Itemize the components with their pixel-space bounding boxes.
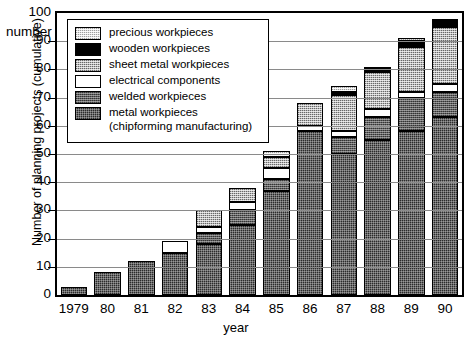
bar-segment-87-electrical [331,131,357,137]
x-tick-label-83: 83 [192,301,226,316]
y-tick-label-20: 20 [17,230,51,245]
bar-segment-89-metal [398,131,424,295]
bar-segment-84-sheet [229,188,255,202]
y-tick-mark-50 [48,154,55,155]
legend-label-precious: precious workpieces [109,26,213,40]
legend-label-electrical: electrical components [109,74,220,88]
y-tick-mark-90 [48,41,55,42]
x-tick-label-88: 88 [361,301,395,316]
x-tick-label-90: 90 [428,301,462,316]
y-tick-label-80: 80 [17,60,51,75]
bar-segment-85-metal [263,191,289,295]
bar-segment-82-metal [162,253,188,295]
legend-swatch-welded-icon [75,91,101,104]
gridline-30 [57,210,462,211]
bar-segment-86-metal [297,131,323,295]
y-tick-mark-70 [48,98,55,99]
y-tick-label-70: 70 [17,89,51,104]
bar-segment-88-sheet [364,72,390,109]
bar-segment-84-electrical [229,202,255,210]
gridline-10 [57,267,462,268]
y-tick-label-0: 0 [17,286,51,301]
gridline-50 [57,154,462,155]
x-axis-title: year [0,320,472,335]
gridline-20 [57,239,462,240]
legend-swatch-sheet-icon [75,59,101,72]
legend-swatch-electrical-icon [75,75,101,88]
x-tick-label-89: 89 [395,301,429,316]
bar-segment-88-metal [364,140,390,295]
gridline-40 [57,182,462,183]
bar-segment-90-metal [432,117,458,295]
bar-segment-87-metal [331,154,357,295]
y-tick-mark-60 [48,126,55,127]
legend-swatch-wooden-icon [75,43,101,56]
y-tick-mark-80 [48,69,55,70]
bar-segment-83-sheet [196,210,222,227]
bar-segment-86-sheet [297,103,323,126]
bar-segment-88-electrical [364,109,390,117]
y-tick-label-90: 90 [17,32,51,47]
y-tick-label-10: 10 [17,258,51,273]
bar-segment-90-sheet [432,27,458,83]
legend: precious workpieceswooden workpiecesshee… [67,19,269,143]
x-tick-label-1979: 1979 [57,301,91,316]
bar-segment-87-welded [331,137,357,154]
legend-item-welded: welded workpieces [75,90,261,104]
bar-segment-84-welded [229,210,255,224]
y-tick-label-60: 60 [17,117,51,132]
bar-segment-87-wooden [331,92,357,95]
x-tick-label-84: 84 [226,301,260,316]
x-tick-label-87: 87 [327,301,361,316]
bar-segment-90-wooden [432,21,458,27]
bar-segment-88-welded [364,117,390,140]
legend-item-sheet: sheet metal workpieces [75,58,261,72]
bar-segment-90-precious [432,19,458,22]
y-tick-mark-10 [48,267,55,268]
y-tick-mark-40 [48,182,55,183]
bar-segment-1979-metal [61,287,87,295]
legend-item-electrical: electrical components [75,74,261,88]
bar-segment-87-precious [331,86,357,92]
y-tick-mark-30 [48,210,55,211]
legend-item-metal: metal workpieces (chipforming manufactur… [75,106,261,133]
bar-segment-85-welded [263,179,289,190]
bar-segment-90-electrical [432,84,458,92]
legend-label-sheet: sheet metal workpieces [109,58,229,72]
x-tick-label-86: 86 [293,301,327,316]
legend-label-wooden: wooden workpieces [109,42,210,56]
y-tick-label-100: 100 [17,4,51,19]
bar-segment-83-metal [196,244,222,295]
bar-segment-84-metal [229,225,255,296]
bar-segment-82-electrical [162,241,188,252]
legend-item-wooden: wooden workpieces [75,42,261,56]
x-tick-label-85: 85 [260,301,294,316]
legend-label-metal: metal workpieces (chipforming manufactur… [109,106,252,133]
bar-segment-85-sheet [263,157,289,168]
legend-swatch-metal-icon [75,107,101,120]
legend-label-welded: welded workpieces [109,90,206,104]
legend-swatch-precious-icon [75,27,101,40]
y-tick-label-40: 40 [17,173,51,188]
bar-segment-80-metal [94,272,120,295]
stacked-bar-chart: Number of planning projects (cumulative)… [0,0,472,339]
y-tick-label-50: 50 [17,145,51,160]
y-tick-mark-20 [48,239,55,240]
x-tick-label-82: 82 [158,301,192,316]
y-tick-label-30: 30 [17,201,51,216]
bar-segment-83-electrical [196,227,222,233]
x-tick-label-80: 80 [91,301,125,316]
bar-segment-90-welded [432,92,458,117]
bar-segment-85-electrical [263,168,289,179]
x-tick-label-81: 81 [125,301,159,316]
legend-item-precious: precious workpieces [75,26,261,40]
